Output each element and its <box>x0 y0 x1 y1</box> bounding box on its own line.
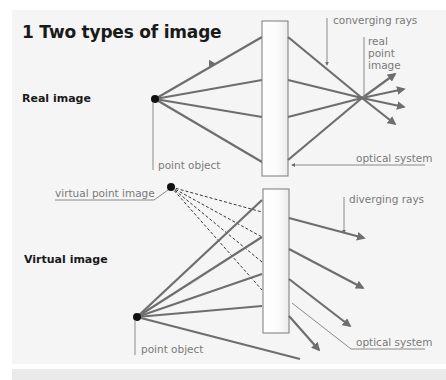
converging-rays-label: converging rays <box>333 14 417 26</box>
converging-rays <box>288 37 362 160</box>
incoming-arrowheads <box>205 64 216 132</box>
real-point-object-dot <box>151 95 159 103</box>
real-point-image-label-3: image <box>368 59 401 71</box>
real-point-image-label-2: point <box>368 47 395 59</box>
virtual-point-image-dot <box>167 183 175 191</box>
virtual-image-diagram <box>55 183 425 359</box>
virtual-point-image-label: virtual point image <box>55 187 155 199</box>
incoming-ray-arrows <box>206 58 216 68</box>
diverging-rays-label: diverging rays <box>349 193 424 205</box>
virtual-optical-system-label: optical system <box>356 336 433 348</box>
optical-system-lens-virtual <box>263 189 289 333</box>
virtual-point-object-dot <box>133 313 141 321</box>
outgoing-rays <box>362 74 404 124</box>
incoming-rays <box>155 37 262 162</box>
real-point-image-label-1: real <box>368 35 388 47</box>
virtual-extension-lines <box>171 187 262 290</box>
converging-arrowheads <box>310 55 323 140</box>
real-optical-system-label: optical system <box>356 152 433 164</box>
real-point-object-label: point object <box>158 159 220 171</box>
virtual-point-object-label: point object <box>141 343 203 355</box>
virtual-leader-lines <box>55 190 425 355</box>
optical-system-lens <box>262 21 288 176</box>
